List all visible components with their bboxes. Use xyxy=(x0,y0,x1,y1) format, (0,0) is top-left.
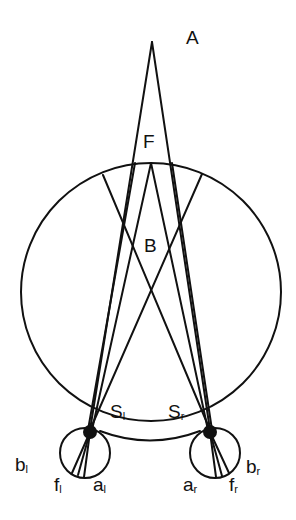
label-b-left: bl xyxy=(15,455,28,474)
label-a-left: al xyxy=(93,475,106,494)
label-main: a xyxy=(183,474,194,495)
label-sub: r xyxy=(257,465,261,477)
label-sub: l xyxy=(26,463,28,475)
label-sub: r xyxy=(194,483,198,495)
label-S-left: Sl xyxy=(110,402,125,421)
label-main: S xyxy=(110,401,123,422)
diagram-lines xyxy=(0,0,296,520)
label-b-right: br xyxy=(246,457,260,476)
label-main: a xyxy=(93,474,104,495)
label-a-right: ar xyxy=(183,475,197,494)
left-nodal-point xyxy=(83,425,97,439)
label-main: b xyxy=(246,456,257,477)
label-f-left: fl xyxy=(54,475,62,494)
label-sub: l xyxy=(104,483,106,495)
label-sub: r xyxy=(181,410,185,422)
label-A: A xyxy=(186,28,199,47)
right-nodal-point xyxy=(203,425,217,439)
label-sub: r xyxy=(234,483,238,495)
diagram-canvas: A F B Sl Sr bl fl al ar fr br xyxy=(0,0,296,520)
label-main: b xyxy=(15,454,26,475)
label-F: F xyxy=(143,132,155,151)
label-sub: l xyxy=(59,483,61,495)
label-sub: l xyxy=(123,410,125,422)
label-main: S xyxy=(168,401,181,422)
label-S-right: Sr xyxy=(168,402,184,421)
label-B: B xyxy=(144,236,157,255)
label-f-right: fr xyxy=(229,475,238,494)
